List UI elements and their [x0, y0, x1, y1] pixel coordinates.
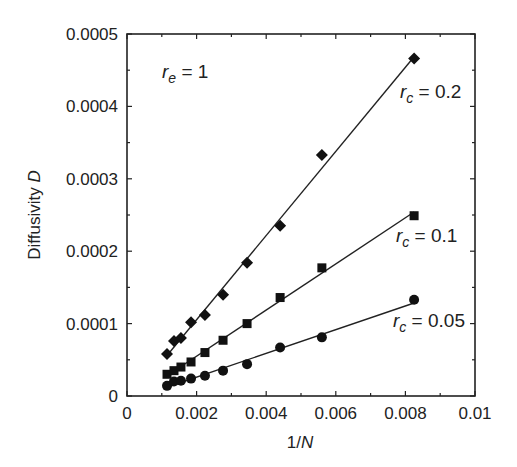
data-point-square: [187, 357, 196, 366]
data-point-circle: [242, 359, 252, 369]
data-point-square: [243, 319, 252, 328]
data-point-circle: [218, 366, 228, 376]
data-point-diamond: [274, 220, 286, 232]
y-tick-label: 0.0001: [66, 315, 118, 334]
data-point-circle: [200, 371, 210, 381]
y-tick-label: 0.0004: [66, 97, 118, 116]
y-tick-label: 0.0005: [66, 25, 118, 44]
x-tick-label: 0: [122, 404, 131, 423]
annotation-rc-0.1: rc = 0.1: [396, 225, 457, 250]
data-point-square: [176, 363, 185, 372]
data-point-square: [410, 211, 419, 220]
x-tick-label: 0.004: [245, 404, 288, 423]
x-tick-label: 0.002: [175, 404, 218, 423]
data-point-circle: [275, 342, 285, 352]
y-tick-label: 0: [109, 387, 118, 406]
x-tick-label: 0.01: [458, 404, 491, 423]
y-axis-label: Diffusivity D: [25, 170, 44, 259]
data-point-diamond: [241, 257, 253, 269]
x-tick-label: 0.008: [384, 404, 427, 423]
data-point-square: [219, 336, 228, 345]
data-point-diamond: [199, 309, 211, 321]
diffusivity-chart: 00.0020.0040.0060.0080.0100.00010.00020.…: [0, 0, 517, 467]
series-circle: [162, 295, 419, 391]
data-series: [161, 53, 420, 391]
data-point-square: [200, 348, 209, 357]
x-tick-label: 0.006: [315, 404, 358, 423]
data-point-circle: [317, 332, 327, 342]
data-point-diamond: [316, 149, 328, 161]
annotation-re: re = 1: [162, 61, 208, 86]
annotation-rc-0.2: rc = 0.2: [400, 81, 461, 106]
x-axis-label: 1/N: [287, 433, 314, 452]
y-tick-label: 0.0002: [66, 242, 118, 261]
data-point-circle: [176, 376, 186, 386]
series-square: [163, 211, 419, 379]
annotation-rc-0.05: rc = 0.05: [393, 310, 465, 335]
y-tick-label: 0.0003: [66, 170, 118, 189]
data-point-diamond: [217, 289, 229, 301]
data-point-circle: [186, 374, 196, 384]
data-point-diamond: [185, 316, 197, 328]
data-point-square: [276, 293, 285, 302]
data-point-circle: [409, 295, 419, 305]
data-point-square: [317, 263, 326, 272]
